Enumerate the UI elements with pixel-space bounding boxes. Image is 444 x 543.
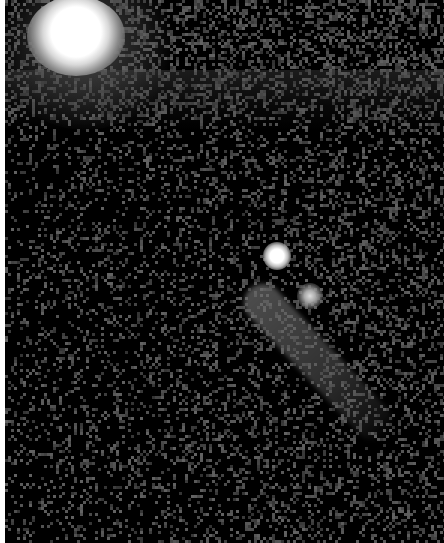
scatter-band	[5, 70, 444, 130]
astronomical-image	[5, 0, 444, 543]
comet-nucleus	[263, 242, 291, 270]
comet-fragment	[297, 283, 323, 309]
